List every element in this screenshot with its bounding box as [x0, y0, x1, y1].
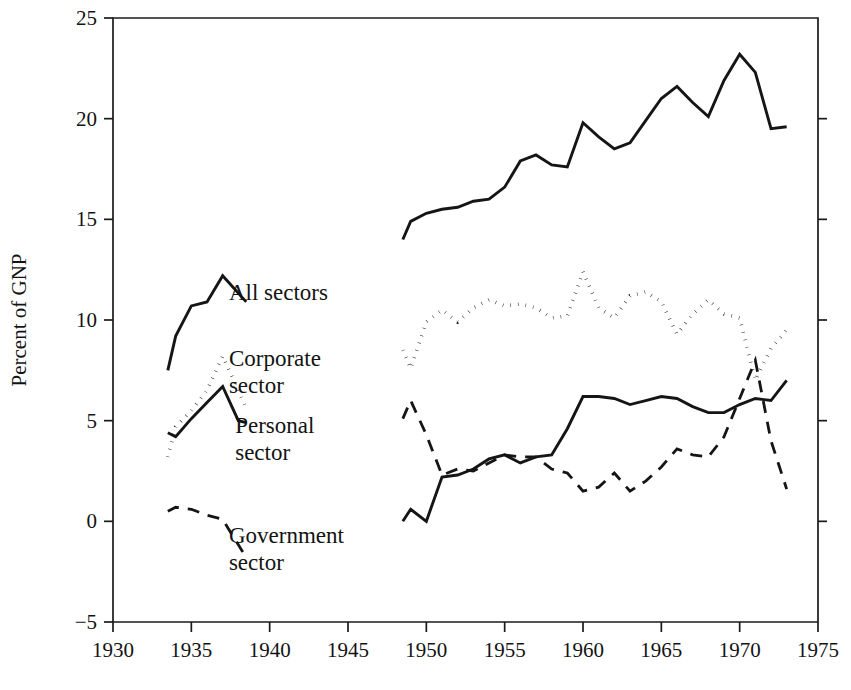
series-annotation-corporate-sector: sector [229, 373, 284, 398]
series-line-all-sectors-postwar [403, 54, 787, 239]
y-tick-label: 0 [87, 509, 98, 533]
y-tick-label: 15 [76, 207, 97, 231]
x-tick-label: 1940 [249, 638, 291, 662]
y-tick-label: 20 [76, 107, 97, 131]
y-tick-label: −5 [75, 610, 97, 634]
y-tick-label: 10 [76, 308, 97, 332]
series-line-corporate-sector-postwar [403, 272, 787, 381]
x-tick-label: 1950 [405, 638, 447, 662]
series-annotation-personal-sector: Personal [235, 413, 314, 438]
series-annotation-corporate-sector: Corporate [229, 346, 321, 371]
x-tick-label: 1930 [92, 638, 134, 662]
x-tick-label: 1960 [562, 638, 604, 662]
series-annotation-government-sector: Government [229, 523, 345, 548]
chart-figure: −505101520251930193519401945195019551960… [0, 0, 851, 690]
y-tick-label: 5 [87, 409, 98, 433]
x-tick-label: 1965 [640, 638, 682, 662]
series-line-government-sector-postwar [403, 360, 787, 491]
series-annotation-personal-sector: sector [235, 440, 290, 465]
series-annotation-all-sectors: All sectors [229, 280, 328, 305]
x-tick-label: 1955 [484, 638, 526, 662]
x-tick-label: 1970 [719, 638, 761, 662]
x-tick-label: 1945 [327, 638, 369, 662]
series-line-personal-sector-postwar [403, 380, 787, 521]
x-tick-label: 1935 [170, 638, 212, 662]
line-chart: −505101520251930193519401945195019551960… [0, 0, 851, 690]
y-tick-label: 25 [76, 6, 97, 30]
x-tick-label: 1975 [797, 638, 839, 662]
y-axis-title: Percent of GNP [7, 254, 31, 387]
series-annotation-government-sector: sector [229, 550, 284, 575]
